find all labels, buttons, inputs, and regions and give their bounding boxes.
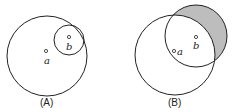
- label-point-b-fig-a: b: [66, 41, 72, 52]
- point-b: [67, 35, 70, 38]
- point-a: [44, 49, 47, 52]
- label-point-a-fig-b: a: [177, 46, 183, 57]
- figure-b-caption: (B): [168, 97, 181, 108]
- diagram-canvas: [0, 0, 233, 112]
- label-point-a-fig-a: a: [44, 55, 50, 66]
- label-point-b-fig-b: b: [193, 40, 199, 51]
- figure-a-caption: (A): [40, 97, 53, 108]
